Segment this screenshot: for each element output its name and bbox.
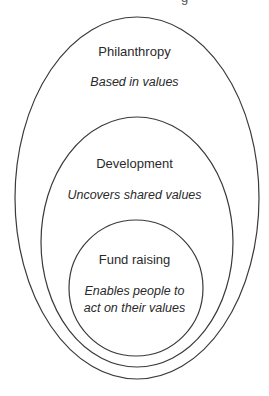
fund-raising-description-line1: Enables people to <box>0 284 269 298</box>
philanthropy-title: Philanthropy <box>0 44 269 59</box>
cut-off-heading: g <box>50 0 269 5</box>
development-ellipse <box>41 117 233 367</box>
development-title: Development <box>0 156 269 171</box>
fund-raising-title: Fund raising <box>0 252 269 267</box>
philanthropy-description: Based in values <box>0 75 269 89</box>
development-description: Uncovers shared values <box>0 188 269 202</box>
fund-raising-description-line2: act on their values <box>0 301 269 315</box>
